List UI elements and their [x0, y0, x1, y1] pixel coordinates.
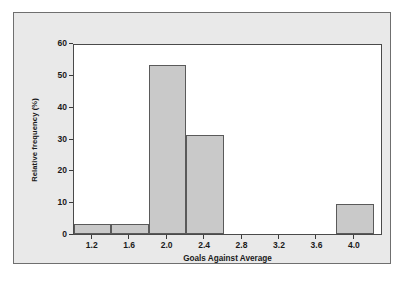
- x-tick-label: 4.0: [348, 240, 360, 250]
- x-tick-mark: [91, 235, 92, 239]
- histogram-bar: [74, 224, 111, 234]
- x-tick-label: 2.0: [161, 240, 173, 250]
- y-tick-label: 60: [58, 38, 67, 49]
- y-tick-label: 0: [62, 229, 67, 240]
- x-tick-mark: [315, 235, 316, 239]
- x-tick-label: 3.6: [311, 240, 323, 250]
- x-tick-label: 1.6: [123, 240, 135, 250]
- x-tick-label: 2.8: [236, 240, 248, 250]
- y-tick-label: 50: [58, 70, 67, 81]
- x-tick-mark: [241, 235, 242, 239]
- x-tick-label: 2.4: [198, 240, 210, 250]
- y-axis-tick-group: 0102030405060: [14, 13, 73, 263]
- y-tick-label: 40: [58, 102, 67, 113]
- x-axis-title: Goals Against Average: [73, 254, 382, 263]
- y-tick-label: 20: [58, 165, 67, 176]
- histogram-bar: [111, 224, 148, 234]
- x-tick-mark: [278, 235, 279, 239]
- figure-frame: Relative frequency (%) 0102030405060 1.2…: [13, 12, 391, 264]
- x-tick-mark: [353, 235, 354, 239]
- histogram-bar: [336, 204, 373, 234]
- x-tick-mark: [166, 235, 167, 239]
- x-tick-mark: [203, 235, 204, 239]
- x-tick-mark: [128, 235, 129, 239]
- x-tick-label: 3.2: [273, 240, 285, 250]
- histogram-bar: [186, 135, 223, 234]
- x-tick-label: 1.2: [86, 240, 98, 250]
- y-tick-label: 30: [58, 134, 67, 145]
- plot-area: [73, 44, 382, 235]
- y-tick-label: 10: [58, 197, 67, 208]
- histogram-bar: [149, 65, 186, 234]
